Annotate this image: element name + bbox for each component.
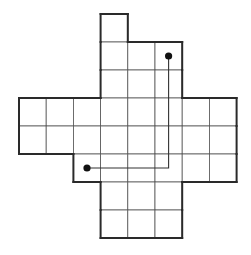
grid-cell (182, 154, 209, 182)
grid-cell (101, 14, 128, 42)
grid-cell (46, 126, 73, 154)
grid-cell (101, 42, 128, 70)
grid-cell (19, 98, 46, 126)
grid-cell (209, 98, 236, 126)
grid-cell (209, 126, 236, 154)
grid-cell (101, 98, 128, 126)
grid-cell (209, 154, 236, 182)
grid-cell (101, 126, 128, 154)
grid-cell (155, 182, 182, 210)
grid-cell (101, 70, 128, 98)
start-dot (165, 52, 172, 59)
grid-cell (46, 98, 73, 126)
grid-cell (19, 126, 46, 154)
grid-cell (128, 70, 155, 98)
end-dot (83, 164, 90, 171)
grid-cells (19, 14, 237, 238)
grid-cell (73, 126, 100, 154)
grid-cell (128, 98, 155, 126)
grid-cell (182, 126, 209, 154)
grid-cell (182, 98, 209, 126)
grid-cell (128, 126, 155, 154)
grid-cell (101, 210, 128, 238)
grid-cell (73, 98, 100, 126)
grid-cell (101, 182, 128, 210)
grid-cell (155, 210, 182, 238)
grid-diagram (0, 0, 251, 255)
grid-cell (128, 210, 155, 238)
grid-cell (128, 42, 155, 70)
grid-cell (128, 182, 155, 210)
